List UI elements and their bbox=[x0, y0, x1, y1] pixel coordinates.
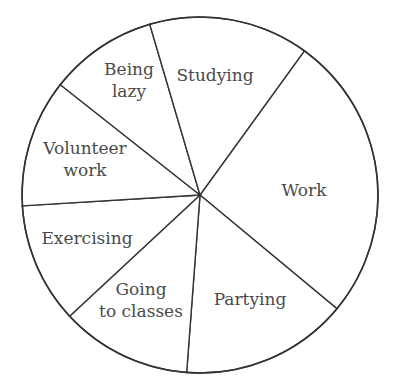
slice-label-work: Work bbox=[282, 180, 328, 200]
slice-label-studying: Studying bbox=[176, 65, 253, 85]
pie-chart: WorkPartyingGoingto classesExercisingVol… bbox=[0, 0, 400, 384]
slice-label-partying: Partying bbox=[214, 289, 287, 309]
slice-label-exercising: Exercising bbox=[41, 228, 132, 248]
